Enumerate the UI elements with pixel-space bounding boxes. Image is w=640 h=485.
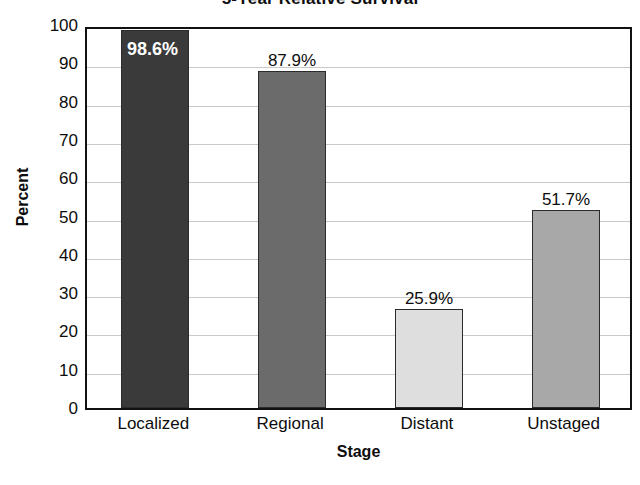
y-axis-tick-label: 40 [18,246,78,266]
bar [532,210,600,408]
bar-value-label: 98.6% [122,39,188,60]
bar [258,71,326,408]
y-axis-tick-label: 50 [18,208,78,228]
y-axis-tick-label: 70 [18,131,78,151]
x-axis-title: Stage [85,443,632,461]
bar-chart: 5-Year Relative Survival Percent 1009080… [0,0,640,485]
x-axis-tick-label: Unstaged [495,414,632,434]
bar [395,309,463,408]
bar [121,30,189,408]
x-axis-tick-label: Distant [359,414,496,434]
y-axis-tick-label: 90 [18,54,78,74]
y-axis-tick-label: 30 [18,284,78,304]
y-axis-tick-label: 100 [18,16,78,36]
y-axis-tick-label: 0 [18,399,78,419]
y-axis-tick-label: 80 [18,93,78,113]
y-axis-tick-label: 60 [18,169,78,189]
bar-value-label: 87.9% [244,51,340,71]
x-axis-tick-label: Localized [85,414,222,434]
bar-value-label: 25.9% [381,289,477,309]
plot-area: 98.6%87.9%25.9%51.7% [85,27,632,410]
y-axis-tick-label: 10 [18,361,78,381]
x-axis-tick-label: Regional [222,414,359,434]
y-axis-tick-label: 20 [18,322,78,342]
bar-value-label: 51.7% [518,190,614,210]
